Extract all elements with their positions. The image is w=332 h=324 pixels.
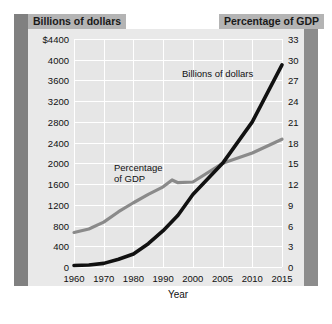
left-axis-tick-label: 0 — [64, 263, 69, 272]
left-axis-tick-label: 2400 — [48, 139, 69, 148]
right-axis-tick-label: 0 — [288, 263, 293, 272]
x-axis-tick-label: 1990 — [153, 274, 174, 284]
right-axis-tick-label: 27 — [288, 76, 299, 85]
right-axis-tick-label: 21 — [288, 118, 299, 127]
left-axis-tick-label: 400 — [53, 242, 69, 251]
x-axis-tick-label: 2010 — [242, 274, 263, 284]
plot-area: $440040003600320028002400200016001200800… — [74, 39, 282, 267]
x-axis-tick-label: 2005 — [212, 274, 233, 284]
left-axis-tick-label: 800 — [53, 222, 69, 231]
left-axis-tick-label: 4000 — [48, 56, 69, 65]
left-axis-tick-label: 1600 — [48, 180, 69, 189]
x-axis-tick-label: 2000 — [182, 274, 203, 284]
left-axis-tick-label: 2000 — [48, 159, 69, 168]
x-axis-tick-label: 1980 — [123, 274, 144, 284]
left-axis-tick-label: $4400 — [43, 35, 69, 44]
plot-frame: $440040003600320028002400200016001200800… — [28, 29, 304, 286]
billions-of-dollars-line — [74, 65, 282, 266]
left-axis-tick-label: 3200 — [48, 97, 69, 106]
right-axis-tick-label: 18 — [288, 139, 299, 148]
x-axis-tick-label: 1960 — [63, 274, 84, 284]
left-axis-tick-label: 1200 — [48, 201, 69, 210]
right-axis-tick-label: 24 — [288, 97, 299, 106]
percentage-of-gdp-line — [74, 139, 282, 232]
left-accent-band — [14, 14, 28, 286]
left-axis-header: Billions of dollars — [28, 14, 126, 29]
right-axis-tick-label: 3 — [288, 242, 293, 251]
right-axis-tick-label: 30 — [288, 56, 299, 65]
gridline — [282, 39, 283, 267]
x-axis-title: Year — [74, 289, 282, 300]
right-axis-tick-label: 12 — [288, 180, 299, 189]
x-axis-tick-label: 1970 — [93, 274, 114, 284]
right-axis-tick-label: 6 — [288, 222, 293, 231]
percentage-annotation-line1: Percentage — [114, 162, 163, 173]
x-axis-tick-label: 2015 — [271, 274, 292, 284]
right-axis-tick-label: 9 — [288, 201, 293, 210]
chart-figure: Billions of dollars Percentage of GDP $4… — [0, 0, 332, 324]
right-accent-band — [304, 14, 318, 286]
right-axis-tick-label: 33 — [288, 35, 299, 44]
percentage-annotation-line2: of GDP — [114, 173, 163, 184]
right-axis-tick-label: 15 — [288, 159, 299, 168]
left-axis-tick-label: 3600 — [48, 76, 69, 85]
gridline — [74, 267, 282, 268]
percentage-of-gdp-annotation: Percentage of GDP — [114, 162, 163, 184]
right-axis-header: Percentage of GDP — [219, 14, 324, 29]
billions-of-dollars-annotation: Billions of dollars — [182, 68, 253, 79]
left-axis-tick-label: 2800 — [48, 118, 69, 127]
